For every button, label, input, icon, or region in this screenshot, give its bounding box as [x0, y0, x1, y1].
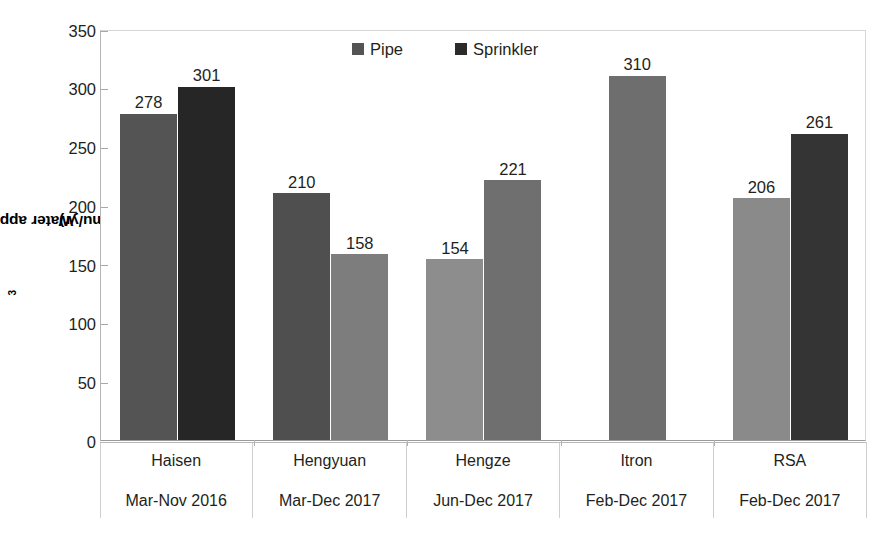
bar-value-label: 221: [499, 161, 527, 178]
bar-sprinkler-haisen[interactable]: 301: [178, 87, 235, 440]
category-period: Mar-Dec 2017: [279, 493, 380, 509]
category-label-table: HaisenMar-Nov 2016HengyuanMar-Dec 2017He…: [100, 442, 866, 518]
bar-group: 278301: [101, 31, 254, 440]
y-axis-title-superscript: 3: [7, 290, 18, 295]
y-axis-tick-label: 300: [68, 81, 101, 98]
category-name: Itron: [620, 453, 652, 469]
bar-value-label: 210: [288, 174, 316, 191]
legend-swatch-icon: [352, 43, 364, 55]
legend-label: Sprinkler: [473, 41, 538, 58]
bar-pipe-hengyuan[interactable]: 210: [273, 193, 330, 440]
category-name: Haisen: [151, 453, 201, 469]
bar-group: 154221: [407, 31, 560, 440]
category-period: Mar-Nov 2016: [126, 493, 227, 509]
category-name: Hengze: [455, 453, 510, 469]
category-period: Jun-Dec 2017: [433, 493, 533, 509]
bar-pipe-itron[interactable]: 310: [609, 76, 666, 440]
bar-value-label: 206: [748, 179, 776, 196]
bar-pipe-haisen[interactable]: 278: [120, 114, 177, 440]
category-period: Feb-Dec 2017: [739, 493, 840, 509]
bar-value-label: 261: [806, 114, 834, 131]
category-name: Hengyuan: [293, 453, 366, 469]
bar-sprinkler-hengyuan[interactable]: 158: [331, 254, 388, 440]
bar-value-label: 154: [441, 240, 469, 257]
bar-fill: [426, 259, 483, 440]
y-axis-tick-label: 150: [68, 258, 101, 275]
y-axis-tick-label: 200: [68, 199, 101, 216]
category-period: Feb-Dec 2017: [586, 493, 687, 509]
bar-chart-figure: Water application (m3/mu/yr) 35030025020…: [0, 0, 893, 541]
legend-swatch-icon: [455, 43, 467, 55]
bar-fill: [273, 193, 330, 440]
bar-value-label: 158: [346, 235, 374, 252]
category-cell-haisen: HaisenMar-Nov 2016: [100, 443, 253, 518]
y-axis-tick-label: 350: [68, 23, 101, 40]
category-table-right-border: [866, 442, 867, 518]
bar-fill: [484, 180, 541, 440]
y-axis-tick-label: 0: [87, 434, 101, 451]
bar-fill: [733, 198, 790, 440]
legend-label: Pipe: [370, 41, 403, 58]
legend-item-sprinkler[interactable]: Sprinkler: [455, 41, 538, 58]
category-cell-itron: ItronFeb-Dec 2017: [560, 443, 713, 518]
bar-pipe-hengze[interactable]: 154: [426, 259, 483, 440]
category-cell-hengyuan: HengyuanMar-Dec 2017: [253, 443, 406, 518]
bar-value-label: 310: [623, 56, 651, 73]
y-axis-tick-label: 250: [68, 140, 101, 157]
category-cell-rsa: RSAFeb-Dec 2017: [714, 443, 866, 518]
bar-fill: [791, 134, 848, 440]
bar-pipe-rsa[interactable]: 206: [733, 198, 790, 440]
bar-sprinkler-hengze[interactable]: 221: [484, 180, 541, 440]
plot-area: 350300250200150100500 278301210158154221…: [100, 30, 866, 441]
category-cell-hengze: HengzeJun-Dec 2017: [407, 443, 560, 518]
bar-value-label: 301: [193, 67, 221, 84]
category-name: RSA: [773, 453, 806, 469]
y-axis-title-text: Water application (m3/mu/yr): [0, 146, 45, 296]
bar-value-label: 278: [135, 94, 163, 111]
chart-legend: PipeSprinkler: [352, 41, 538, 58]
bar-fill: [609, 76, 666, 440]
bars-layer: 278301210158154221310206261: [101, 31, 865, 440]
bar-fill: [331, 254, 388, 440]
bar-group: 210158: [254, 31, 407, 440]
bar-group: 206261: [714, 31, 867, 440]
y-axis-tick-label: 100: [68, 316, 101, 333]
bar-sprinkler-rsa[interactable]: 261: [791, 134, 848, 440]
y-axis-tick-label: 50: [78, 375, 101, 392]
bar-fill: [178, 87, 235, 440]
y-axis-title: Water application (m3/mu/yr): [0, 0, 34, 441]
legend-item-pipe[interactable]: Pipe: [352, 41, 403, 58]
bar-group: 310: [561, 31, 714, 440]
bar-fill: [120, 114, 177, 440]
